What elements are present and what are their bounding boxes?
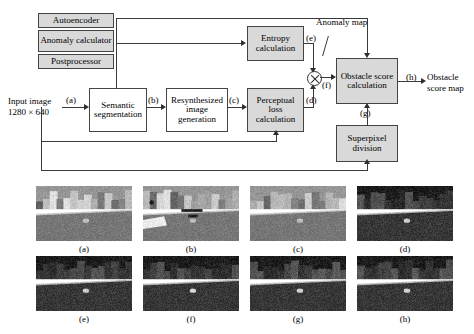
legend-item-postprocessor: Postprocessor [38,54,114,69]
image-panel-d [357,186,453,241]
obstacle-score-map-line1: Obstacle [427,72,464,83]
node-semantic-segmentation: Semantic segmentation [89,88,147,132]
image-panel-a-canvas [36,186,132,241]
wire-semantic-up [116,18,117,88]
arrow-semantic-to-resynth [161,104,166,110]
arrow-input-to-semantic [84,104,89,110]
wire-input-branch-down [41,107,42,170]
node-superpixel-division: Superpixel division [336,125,398,162]
edge-label-d: (d) [306,95,317,105]
node-obstacle-score-calculation: Obstacle score calculation [336,58,398,104]
edge-label-a: (a) [66,95,76,105]
image-panel-f-caption: (f) [143,314,239,324]
legend-item-anomaly-calculator-label: Anomaly calculator [40,36,111,45]
edge-label-c: (c) [229,95,239,105]
wire-perceptual-up-to-mul [313,88,314,107]
input-image-label: Input image 1280 × 640 [8,96,51,119]
arrow-top-rail-to-entropy [241,40,246,46]
input-image-line1: Input image [8,96,51,107]
multiply-operator-icon [307,71,322,86]
node-perceptual-loss-calculation: Perceptual loss calculation [247,88,304,132]
wire-top-rail-obstacle-down [367,18,368,55]
image-panel-b [143,186,239,241]
legend-item-anomaly-calculator: Anomaly calculator [38,30,114,52]
image-panel-f-canvas [143,256,239,311]
node-resynthesized-image-generation-label: Resynthesized image generation [169,96,225,124]
wire-top-rail-entropy [116,43,242,44]
node-entropy-calculation-label: Entropy calculation [250,34,301,52]
arrow-mul-to-obstacle [331,74,336,80]
wire-input-to-semantic [62,107,85,108]
image-panel-c-canvas [250,186,346,241]
image-panel-c [250,186,346,241]
obstacle-score-map-line2: score map [427,83,464,94]
node-semantic-segmentation-label: Semantic segmentation [92,101,144,119]
arrow-rail-to-superpixel [364,159,370,164]
arrow-resynth-to-perceptual [242,104,247,110]
wire-input-rail-superpixel [41,170,367,171]
image-panel-a-caption: (a) [36,244,132,254]
image-panel-g [250,256,346,311]
image-panel-e-canvas [36,256,132,311]
image-panel-c-caption: (c) [250,244,346,254]
image-panel-d-canvas [357,186,453,241]
image-panel-g-caption: (g) [250,314,346,324]
obstacle-score-map-label: Obstacle score map [427,72,464,95]
node-obstacle-score-calculation-label: Obstacle score calculation [339,72,395,90]
node-entropy-calculation: Entropy calculation [247,26,304,61]
wire-rail-up-to-superpixel [367,163,368,171]
input-image-line2: 1280 × 640 [8,107,51,118]
arrow-superpixel-to-obstacle [364,103,370,108]
image-panel-b-caption: (b) [143,244,239,254]
image-panel-g-canvas [250,256,346,311]
edge-label-e: (e) [306,33,316,43]
image-panel-f [143,256,239,311]
wire-input-rail-perceptual [41,141,276,142]
legend-item-postprocessor-label: Postprocessor [51,57,101,66]
figure-root: Autoencoder Anomaly calculator Postproce… [0,0,474,334]
legend-item-autoencoder: Autoencoder [38,13,114,28]
wire-top-rail-obstacle [116,18,367,19]
anomaly-map-pointer-icon [322,36,337,56]
arrow-rail-to-perceptual [273,130,279,135]
edge-label-g: (g) [360,108,371,118]
image-panel-e-caption: (e) [36,314,132,324]
node-perceptual-loss-calculation-label: Perceptual loss calculation [250,96,301,124]
image-panel-d-caption: (d) [357,244,453,254]
legend-item-autoencoder-label: Autoencoder [53,16,99,25]
image-panel-e [36,256,132,311]
image-panel-b-canvas [143,186,239,241]
wire-perceptual-to-mul [304,107,314,108]
node-superpixel-division-label: Superpixel division [339,134,395,152]
arrow-obstacle-to-output [421,78,426,84]
image-panel-h [357,256,453,311]
image-panel-h-caption: (h) [357,314,453,324]
edge-label-b: (b) [148,95,159,105]
wire-superpixel-to-obstacle [367,107,368,126]
arrow-top-rail-to-obstacle [364,53,370,58]
node-resynthesized-image-generation: Resynthesized image generation [166,88,228,132]
image-panel-h-canvas [357,256,453,311]
wire-obstacle-to-output [398,81,423,82]
edge-label-f: (f) [322,80,331,90]
image-panel-a [36,186,132,241]
wire-entropy-down-to-mul [313,43,314,71]
